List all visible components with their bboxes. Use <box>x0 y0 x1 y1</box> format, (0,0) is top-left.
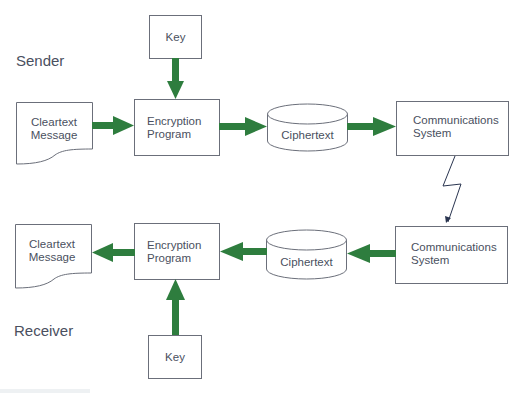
receiver-encryption-line1: Encryption <box>147 239 201 251</box>
sender-key-node: Key <box>150 16 202 59</box>
receiver-comms-line1: Communications <box>411 241 497 253</box>
receiver-label: Receiver <box>14 322 73 339</box>
sender-ciphertext-node: Ciphertext <box>268 104 348 151</box>
encryption-flow-diagram: Sender Receiver Key Cleartext Message En… <box>0 0 516 393</box>
sender-cleartext-line2: Message <box>31 129 78 141</box>
receiver-comms-node: Communications System <box>396 227 508 284</box>
sender-comms-node: Communications System <box>397 102 509 156</box>
receiver-key-label: Key <box>165 351 185 363</box>
receiver-ciphertext-label: Ciphertext <box>280 256 333 268</box>
sender-encryption-node: Encryption Program <box>135 100 220 156</box>
receiver-cleartext-line1: Cleartext <box>29 238 76 250</box>
sender-label: Sender <box>16 52 64 69</box>
bottom-edge-artifact <box>0 389 90 393</box>
arrow-receiver-encryption-to-cleartext <box>92 243 135 262</box>
sender-cleartext-line1: Cleartext <box>31 116 78 128</box>
receiver-cleartext-line2: Message <box>29 251 76 263</box>
arrow-receiver-key-to-encryption <box>166 279 185 336</box>
sender-ciphertext-label: Ciphertext <box>281 129 334 141</box>
arrow-sender-cleartext-to-encryption <box>92 116 134 135</box>
arrow-sender-key-to-encryption <box>167 58 184 99</box>
receiver-key-node: Key <box>149 336 202 379</box>
receiver-cleartext-node: Cleartext Message <box>16 225 92 289</box>
sender-encryption-line2: Program <box>147 128 191 140</box>
arrow-sender-encryption-to-ciphertext <box>219 117 267 136</box>
sender-cleartext-node: Cleartext Message <box>17 103 93 165</box>
sender-key-label: Key <box>166 31 186 43</box>
sender-comms-line1: Communications <box>413 114 499 126</box>
receiver-encryption-line2: Program <box>147 252 191 264</box>
sender-comms-line2: System <box>413 127 451 139</box>
sender-encryption-line1: Encryption <box>147 115 201 127</box>
arrow-sender-ciphertext-to-comms <box>347 117 396 136</box>
transmission-lightning-icon <box>443 156 461 223</box>
receiver-comms-line2: System <box>411 254 449 266</box>
receiver-ciphertext-node: Ciphertext <box>267 230 347 279</box>
arrow-receiver-comms-to-ciphertext <box>347 244 396 263</box>
receiver-encryption-node: Encryption Program <box>135 224 220 280</box>
arrow-receiver-ciphertext-to-encryption <box>220 242 267 261</box>
